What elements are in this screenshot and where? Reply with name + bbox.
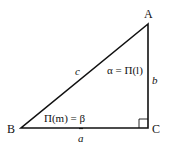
triangle-diagram: A B C c b a α = Π(l) Π(m) = β (0, 0, 175, 150)
right-angle-marker (139, 119, 148, 128)
vertex-b-label: B (7, 122, 15, 136)
side-c-label: c (75, 65, 80, 77)
angle-beta-label: Π(m) = β (44, 112, 86, 125)
angle-alpha-label: α = Π(l) (107, 64, 143, 77)
side-a-label: a (78, 132, 84, 144)
vertex-c-label: C (152, 122, 160, 136)
side-b-label: b (152, 74, 158, 86)
vertex-a-label: A (144, 7, 153, 21)
